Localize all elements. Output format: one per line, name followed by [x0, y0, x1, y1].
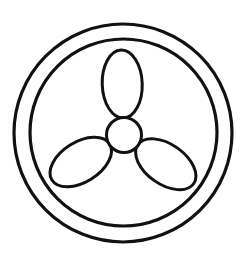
- blade-top: [101, 49, 143, 118]
- fan-symbol-canvas: Fan symbol: [0, 0, 249, 264]
- fan-icon: [0, 0, 249, 264]
- fan-hub: [107, 118, 142, 153]
